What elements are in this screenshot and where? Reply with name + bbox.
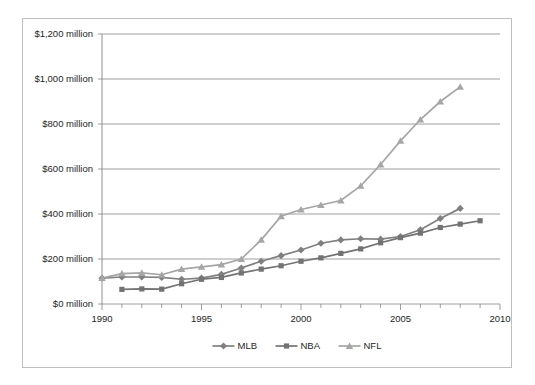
y-tick-label-0: $0 million [53, 298, 93, 309]
legend-item-mlb[interactable]: MLB [213, 340, 258, 351]
data-point-mlb-2008 [457, 205, 464, 212]
data-point-nba-2003 [358, 246, 363, 251]
y-tick-label-1000: $1,000 million [34, 73, 93, 84]
data-point-nba-1994 [179, 281, 184, 286]
x-tick-label-2000: 2000 [290, 313, 311, 324]
x-tick-label-1995: 1995 [191, 313, 212, 324]
y-tick-label-800: $800 million [42, 118, 93, 129]
chart-figure: $0 million$200 million$400 million$600 m… [22, 18, 512, 368]
data-point-nba-2005 [398, 235, 403, 240]
data-point-mlb-1999 [278, 252, 285, 259]
data-point-nba-1992 [139, 286, 144, 291]
data-point-mlb-2001 [317, 240, 324, 247]
legend-marker-diamond-icon [220, 342, 227, 349]
data-point-nba-1997 [239, 270, 244, 275]
series-line-nfl [102, 87, 460, 278]
data-point-nba-1999 [279, 263, 284, 268]
legend-label-nba: NBA [301, 340, 321, 351]
chart-legend: MLBNBANFL [213, 340, 382, 351]
data-point-nba-2000 [298, 259, 303, 264]
data-point-nba-2007 [438, 225, 443, 230]
y-tick-label-200: $200 million [42, 253, 93, 264]
data-point-nba-2008 [458, 222, 463, 227]
data-point-nba-2006 [418, 231, 423, 236]
data-point-nba-1993 [159, 287, 164, 292]
series-nba [119, 218, 482, 292]
data-point-nfl-2008 [456, 83, 464, 90]
data-point-nba-2001 [318, 255, 323, 260]
data-point-nba-2004 [378, 240, 383, 245]
data-point-mlb-2007 [437, 215, 444, 222]
x-axis-ticks [102, 304, 500, 310]
y-tick-label-400: $400 million [42, 208, 93, 219]
x-axis-tick-labels: 19901995200020052010 [91, 313, 510, 324]
data-point-nba-2009 [478, 218, 483, 223]
line-chart-plot: $0 million$200 million$400 million$600 m… [23, 19, 513, 369]
data-point-nba-1995 [199, 277, 204, 282]
legend-label-mlb: MLB [238, 340, 258, 351]
data-point-nba-1991 [119, 287, 124, 292]
x-tick-label-2010: 2010 [489, 313, 510, 324]
data-series [98, 83, 482, 292]
data-point-mlb-2003 [357, 235, 364, 242]
y-tick-label-1200: $1,200 million [34, 28, 93, 39]
legend-item-nba[interactable]: NBA [276, 340, 321, 351]
x-tick-label-2005: 2005 [390, 313, 411, 324]
data-point-nba-1996 [219, 275, 224, 280]
data-point-mlb-2000 [297, 246, 304, 253]
legend-label-nfl: NFL [364, 340, 382, 351]
series-nfl [98, 83, 464, 281]
legend-marker-square-icon [284, 343, 289, 348]
y-axis-tick-labels: $0 million$200 million$400 million$600 m… [34, 28, 93, 309]
x-tick-label-1990: 1990 [91, 313, 112, 324]
legend-item-nfl[interactable]: NFL [339, 340, 382, 351]
y-axis-line [98, 34, 102, 304]
data-point-mlb-2002 [337, 236, 344, 243]
data-point-nba-2002 [338, 251, 343, 256]
data-point-nba-1998 [259, 267, 264, 272]
y-tick-label-600: $600 million [42, 163, 93, 174]
